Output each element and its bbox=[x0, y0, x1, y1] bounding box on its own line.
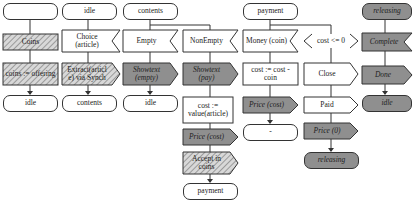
state-contents-header: contents bbox=[123, 3, 178, 20]
output-paid: Paid bbox=[304, 97, 350, 113]
output-showtext-empty: Showtext (empty) bbox=[123, 63, 170, 85]
state-idle: idle bbox=[3, 95, 58, 112]
state-idle-header: idle bbox=[62, 3, 117, 20]
input-nonempty: NonEmpty bbox=[183, 30, 230, 52]
output-showtext-pay: Showtext (pay) bbox=[183, 63, 230, 85]
state-releasing: releasing bbox=[304, 152, 359, 169]
state-payment: payment bbox=[183, 183, 238, 200]
input-choice-article: Choice (article) bbox=[62, 30, 112, 52]
output-price-cost: Price (cost) bbox=[183, 129, 230, 145]
continuous-signal-cost-le-0: cost <= 0 bbox=[308, 34, 354, 48]
state-idle-3: idle bbox=[362, 95, 412, 112]
state-payment-header: payment bbox=[243, 3, 298, 20]
output-price-0: Price (0) bbox=[304, 123, 350, 139]
task-cost-minus-coin: cost := cost - coin bbox=[243, 63, 298, 85]
start-state bbox=[3, 3, 58, 20]
output-extract-article: Extract(articl e) via Synch bbox=[62, 63, 112, 85]
task-cost-value: cost := value(article) bbox=[183, 97, 233, 123]
state-dash: - bbox=[243, 124, 298, 141]
input-money-coin: Money (coin) bbox=[243, 30, 290, 52]
output-accept-coins: Accept in coins bbox=[183, 152, 230, 174]
input-empty: Empty bbox=[123, 30, 170, 52]
state-contents: contents bbox=[62, 95, 117, 112]
state-idle-2: idle bbox=[123, 95, 178, 112]
state-releasing-header: releasing bbox=[362, 3, 412, 20]
output-price-cost-2: Price (cost) bbox=[243, 97, 290, 113]
output-done: Done bbox=[362, 66, 404, 84]
input-complete: Complete bbox=[362, 33, 406, 51]
output-close: Close bbox=[304, 63, 350, 85]
task-coins-offering: coins := offering bbox=[3, 63, 58, 85]
task-coins: Coins bbox=[3, 34, 58, 50]
